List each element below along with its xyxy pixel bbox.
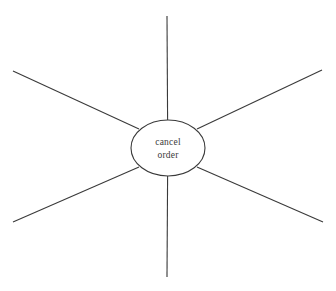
spoke-upper-right-line bbox=[197, 70, 322, 129]
spoke-lower-right-line bbox=[197, 167, 323, 222]
spoke-bottom-line bbox=[167, 176, 168, 277]
spoke-upper-left-line bbox=[13, 71, 139, 129]
radial-spoke-diagram: cancel order bbox=[0, 0, 336, 291]
hub-ellipse bbox=[131, 120, 205, 176]
spoke-lower-left-line bbox=[13, 167, 139, 222]
diagram-canvas: cancel order bbox=[0, 0, 336, 291]
spoke-top-line bbox=[167, 16, 168, 120]
hub-label-line-1: cancel bbox=[155, 137, 181, 147]
hub-label-line-2: order bbox=[157, 150, 179, 160]
